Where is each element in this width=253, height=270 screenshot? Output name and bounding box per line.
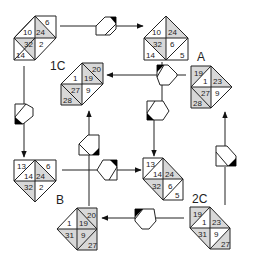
cell-value: 6 (46, 162, 51, 171)
cell-value: 2 (39, 183, 44, 192)
tile-a[interactable]: 19 1 23 27 9 28 (191, 66, 232, 108)
cell-value: 5 (175, 191, 180, 200)
tile-2c[interactable]: 19 1 23 31 9 27 (190, 207, 230, 249)
cell-value: 9 (215, 89, 220, 98)
cell-value: 24 (36, 28, 45, 37)
cell-value: 20 (92, 65, 101, 74)
cell-value: 32 (24, 183, 33, 192)
cell-value: 1 (67, 219, 72, 228)
cell-value: 23 (213, 77, 222, 86)
cell-value: 31 (198, 230, 207, 239)
cell-value: 13 (146, 160, 155, 169)
a-to-1c-connector[interactable] (157, 65, 177, 85)
cell-value: 20 (87, 211, 96, 220)
cell-value: 6 (168, 182, 173, 191)
2c-up-to-a-connector[interactable] (216, 146, 236, 166)
tile-bottom-left[interactable]: 13 6 14 24 32 2 (14, 160, 56, 202)
tile-b[interactable]: 20 1 19 31 9 27 (57, 208, 97, 250)
cell-value: 32 (152, 182, 161, 191)
cell-value: 24 (168, 28, 177, 37)
cell-value: 1 (202, 218, 207, 227)
label-b: B (56, 193, 64, 207)
label-2c: 2C (192, 192, 208, 206)
cell-value: 28 (193, 99, 202, 108)
label-a: A (197, 50, 205, 64)
tile-top-right[interactable]: 10 24 32 6 14 5 (144, 16, 188, 60)
top-right-down-connector[interactable] (147, 101, 169, 120)
diagram-canvas: 6 10 24 32 2 14 10 24 32 6 14 5 1C 20 1 … (0, 0, 253, 270)
cell-value: 32 (24, 40, 33, 49)
cell-value: 23 (212, 218, 221, 227)
cell-value: 1 (73, 74, 78, 83)
cell-value: 19 (79, 219, 88, 228)
cell-value: 10 (152, 28, 161, 37)
2c-to-b-connector[interactable] (135, 209, 156, 229)
cell-value: 14 (16, 51, 25, 60)
cell-value: 5 (180, 51, 185, 60)
cell-value: 13 (17, 162, 26, 171)
cell-value: 27 (201, 89, 210, 98)
cell-value: 14 (146, 51, 155, 60)
bl-to-center-connector[interactable] (97, 160, 117, 180)
cell-value: 2 (39, 40, 44, 49)
cell-value: 14 (153, 170, 162, 179)
label-1c: 1C (50, 59, 66, 73)
cell-value: 24 (165, 170, 174, 179)
cell-value: 6 (45, 18, 50, 27)
connection-lines (24, 26, 225, 218)
tile-1c[interactable]: 20 1 19 27 9 28 (61, 63, 103, 105)
cell-value: 32 (153, 40, 162, 49)
b-up-to-1c-connector[interactable] (79, 135, 99, 155)
cell-value: 27 (71, 86, 80, 95)
cell-value: 9 (81, 231, 86, 240)
cell-value: 24 (36, 172, 45, 181)
cell-value: 6 (170, 40, 175, 49)
cell-value: 28 (63, 96, 72, 105)
tile-top-left[interactable]: 6 10 24 32 2 14 (14, 16, 56, 60)
top-connector[interactable] (96, 17, 116, 35)
cell-value: 1 (203, 77, 208, 86)
cell-value: 27 (221, 240, 230, 249)
cell-value: 14 (24, 172, 33, 181)
tile-center[interactable]: 13 14 24 32 6 5 (143, 158, 183, 200)
cell-value: 10 (23, 28, 32, 37)
cell-value: 27 (88, 241, 97, 250)
diagram-svg: 6 10 24 32 2 14 10 24 32 6 14 5 1C 20 1 … (0, 0, 253, 270)
cell-value: 9 (214, 230, 219, 239)
cell-value: 31 (65, 231, 74, 240)
cell-value: 19 (84, 74, 93, 83)
left-down-connector[interactable] (15, 104, 33, 124)
cell-value: 9 (86, 86, 91, 95)
